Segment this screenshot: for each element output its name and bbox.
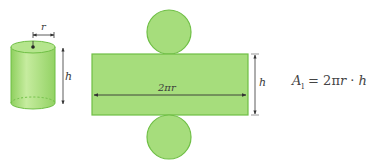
cylinder-height-label: h <box>65 70 72 83</box>
formula-equals: = 2π <box>304 73 340 88</box>
net-bottom-circle <box>147 115 191 159</box>
rectangle-height-label: h <box>259 76 266 89</box>
lateral-area-formula: Al = 2πr · h <box>292 73 367 91</box>
formula-area-symbol: A <box>292 73 301 88</box>
circumference-label: 2πr <box>157 82 177 93</box>
formula-h: h <box>359 73 367 88</box>
formula-dot: · <box>346 73 358 88</box>
cylinder-3d: r h <box>11 21 72 109</box>
net-top-circle <box>147 10 191 54</box>
radius-label: r <box>41 21 47 32</box>
